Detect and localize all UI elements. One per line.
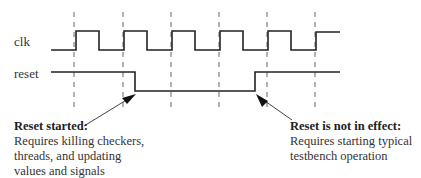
reset-started-line: values and signals <box>14 164 144 178</box>
clk-waveform <box>51 31 340 50</box>
reset-not-in-effect-note: Reset is not in effect: Requires startin… <box>290 119 412 164</box>
clock-edge-guides <box>74 12 315 112</box>
reset-label: reset <box>14 66 39 82</box>
reset-started-line: Requires killing checkers, <box>14 134 144 149</box>
reset-not-in-effect-title: Reset is not in effect: <box>290 119 412 134</box>
clk-label: clk <box>14 34 30 50</box>
reset-not-in-effect-arrow <box>256 94 292 120</box>
reset-waveform <box>51 72 340 91</box>
reset-started-title: Reset started: <box>14 119 144 134</box>
reset-started-line: threads, and updating <box>14 149 144 164</box>
reset-started-note: Reset started: Requires killing checkers… <box>14 119 144 178</box>
reset-not-in-effect-line: Requires starting typical <box>290 134 412 149</box>
reset-not-in-effect-line: testbench operation <box>290 149 412 164</box>
